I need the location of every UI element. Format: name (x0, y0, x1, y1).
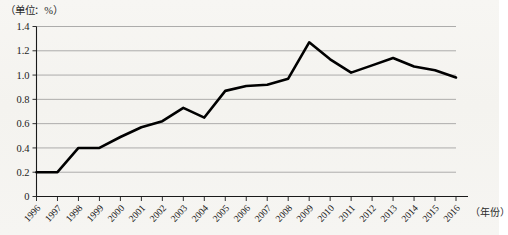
x-tick-label: 2006 (231, 202, 252, 224)
y-tick-label: 0.2 (16, 167, 29, 178)
x-tick-label: 2012 (357, 202, 378, 224)
x-tick-label: 1998 (63, 202, 84, 224)
y-axis-ticks-group: 00.20.40.60.81.01.21.4 (16, 21, 36, 202)
y-tick-label: 1.0 (16, 70, 29, 81)
x-axis-ticks-group: 1996199719981999200020012002200320042005… (21, 197, 462, 224)
y-tick-label: 0.6 (16, 118, 29, 129)
y-tick-label: 0.4 (16, 143, 30, 154)
x-tick-label: 2013 (378, 202, 399, 224)
x-tick-label: 2002 (147, 202, 168, 224)
y-tick-label: 1.2 (16, 45, 29, 56)
y-tick-label: 0.8 (16, 94, 29, 105)
x-tick-label: 2011 (336, 202, 357, 223)
x-tick-label: 2016 (441, 202, 462, 224)
x-tick-label: 2007 (252, 202, 273, 224)
y-tick-label: 0 (24, 191, 29, 202)
x-tick-label: 1996 (21, 202, 42, 224)
x-tick-label: 2005 (210, 202, 231, 224)
x-axis-caption: （年份） (470, 204, 508, 219)
x-tick-label: 1999 (84, 202, 105, 224)
x-tick-label: 1997 (42, 202, 63, 224)
x-tick-label: 2001 (126, 202, 147, 224)
x-tick-label: 2014 (399, 202, 420, 224)
data-series-line (37, 42, 457, 172)
x-tick-label: 2004 (189, 202, 210, 224)
x-tick-label: 2010 (315, 202, 336, 224)
x-tick-label: 2000 (105, 202, 126, 224)
x-tick-label: 2015 (420, 202, 441, 224)
x-tick-label: 2008 (273, 202, 294, 224)
x-tick-label: 2009 (294, 202, 315, 224)
gridlines-group (37, 27, 457, 173)
x-tick-label: 2003 (168, 202, 189, 224)
y-tick-label: 1.4 (16, 21, 30, 32)
